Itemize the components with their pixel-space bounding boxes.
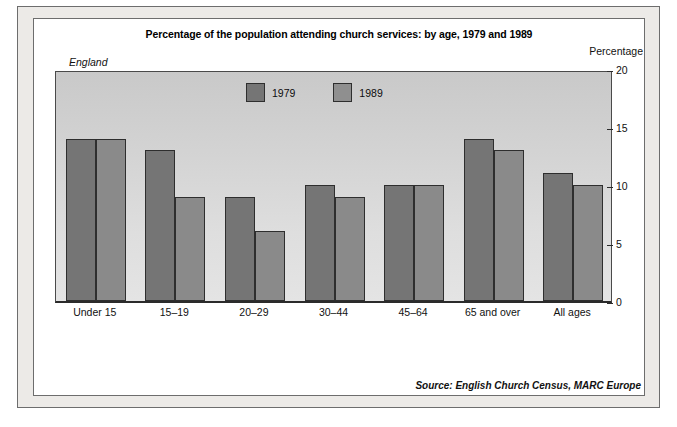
y-tick-label: 10 (616, 180, 628, 192)
bar-1979-all-ages (543, 173, 573, 301)
bar-group (145, 72, 205, 301)
y-tick-mark (607, 303, 613, 304)
y-tick-mark (607, 129, 613, 130)
bar-1979-45–64 (384, 185, 414, 301)
bar-group (225, 72, 285, 301)
x-tick-label: 65 and over (453, 306, 533, 318)
bar-1989-20–29 (255, 231, 285, 301)
legend-swatch-1979 (246, 83, 265, 102)
bar-1979-30–44 (305, 185, 335, 301)
y-axis-unit-label: Percentage (589, 45, 643, 57)
x-tick-label: Under 15 (55, 306, 135, 318)
x-tick-label: 30–44 (294, 306, 374, 318)
bar-1979-20–29 (225, 197, 255, 301)
x-tick-label: 15–19 (135, 306, 215, 318)
x-tick-label: All ages (532, 306, 612, 318)
x-tick-label: 45–64 (373, 306, 453, 318)
bar-1989-15–19 (175, 197, 205, 301)
x-tick-label: 20–29 (214, 306, 294, 318)
bar-group (464, 72, 524, 301)
bar-1989-45–64 (414, 185, 444, 301)
bar-1989-65-and-over (494, 150, 524, 301)
x-axis: Under 1515–1920–2930–4445–6465 and overA… (55, 306, 612, 326)
legend-item-1979: 1979 (246, 83, 295, 102)
bar-1979-65-and-over (464, 139, 494, 301)
figure-page: Percentage of the population attending c… (0, 0, 677, 427)
bar-1989-all-ages (573, 185, 603, 301)
y-tick-label: 20 (616, 64, 628, 76)
bar-group (384, 72, 444, 301)
y-tick-mark (607, 187, 613, 188)
legend-label-1979: 1979 (272, 87, 295, 99)
bar-1989-under-15 (96, 139, 126, 301)
plot-area (55, 71, 612, 303)
bar-group (305, 72, 365, 301)
bar-1989-30–44 (335, 197, 365, 301)
bar-group (66, 72, 126, 301)
bars-layer (56, 72, 611, 301)
legend-item-1989: 1989 (333, 83, 382, 102)
legend-swatch-1989 (333, 83, 352, 102)
bar-1979-under-15 (66, 139, 96, 301)
bar-1979-15–19 (145, 150, 175, 301)
bar-group (543, 72, 603, 301)
y-tick-label: 0 (616, 296, 622, 308)
y-tick-label: 5 (616, 238, 622, 250)
region-label: England (69, 56, 108, 68)
y-tick-mark (607, 71, 613, 72)
y-axis: 05101520 (612, 71, 672, 303)
y-tick-label: 15 (616, 122, 628, 134)
chart-title: Percentage of the population attending c… (33, 28, 645, 40)
source-note: Source: English Church Census, MARC Euro… (415, 380, 641, 391)
legend-label-1989: 1989 (359, 87, 382, 99)
y-tick-mark (607, 245, 613, 246)
chart-legend: 19791989 (246, 83, 383, 102)
